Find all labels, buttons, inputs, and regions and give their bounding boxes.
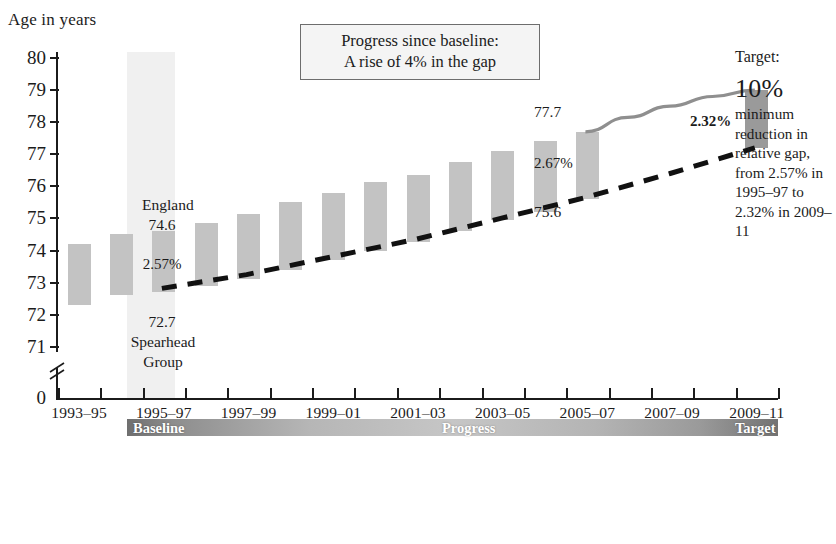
- target-annotation-block: 10% minimum reduction in relative gap, f…: [735, 74, 836, 241]
- label-baseline-spearhead-value: 72.7: [138, 313, 186, 331]
- label-spearhead-line1: Spearhead: [120, 333, 206, 351]
- target-annotation-heading: Target:: [735, 48, 780, 66]
- label-baseline-england-value: 74.6: [138, 216, 186, 234]
- target-annotation-body: minimum reduction in relative gap, from …: [735, 105, 832, 239]
- chart-legend: Projection of life expectancy for Englan…: [0, 447, 836, 544]
- label-2005-gap-pct: 2.67%: [534, 155, 573, 172]
- phase-label-progress: Progress: [442, 420, 495, 437]
- label-2005-spearhead-value: 75.6: [534, 203, 561, 221]
- chart-canvas: Age in years 717273747576777879800 1993–…: [0, 0, 836, 544]
- progress-callout-box: Progress since baseline: A rise of 4% in…: [300, 24, 540, 80]
- phase-label-baseline: Baseline: [133, 420, 185, 437]
- callout-line-2: A rise of 4% in the gap: [305, 51, 535, 72]
- label-spearhead-line2: Group: [120, 353, 206, 371]
- callout-line-1: Progress since baseline:: [305, 30, 535, 51]
- label-baseline-gap-pct: 2.57%: [136, 256, 188, 273]
- target-annotation-big-number: 10%: [735, 74, 784, 103]
- label-target-gap-pct: 2.32%: [690, 113, 731, 130]
- label-england: England: [142, 196, 194, 214]
- phase-label-target: Target: [735, 420, 776, 437]
- label-2005-england-value: 77.7: [534, 103, 561, 121]
